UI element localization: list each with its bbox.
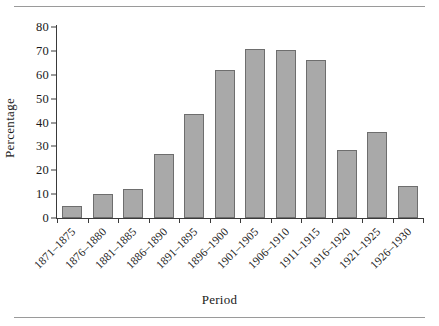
bar bbox=[245, 49, 265, 219]
top-divider-rule bbox=[14, 6, 425, 7]
bar bbox=[337, 150, 357, 218]
y-axis-title: Percentage bbox=[2, 78, 18, 178]
chart-figure: 01020304050607080 1871–18751876–18801881… bbox=[0, 0, 439, 326]
y-tick-mark bbox=[51, 98, 56, 99]
y-tick-mark bbox=[51, 218, 56, 219]
y-tick-label: 10 bbox=[36, 188, 49, 201]
x-tick-mark bbox=[240, 218, 241, 223]
x-tick-mark bbox=[332, 218, 333, 223]
bar bbox=[123, 189, 143, 218]
y-tick-label: 80 bbox=[36, 21, 49, 34]
y-tick-mark bbox=[51, 170, 56, 171]
bar bbox=[184, 114, 204, 218]
bar bbox=[398, 186, 418, 218]
bottom-divider-rule bbox=[14, 317, 425, 318]
y-tick-mark bbox=[51, 74, 56, 75]
y-tick-mark bbox=[51, 146, 56, 147]
bar bbox=[276, 50, 296, 218]
y-tick-label: 50 bbox=[36, 92, 49, 105]
x-tick-mark bbox=[393, 218, 394, 223]
bar bbox=[306, 60, 326, 218]
x-tick-mark bbox=[149, 218, 150, 223]
x-tick-mark bbox=[210, 218, 211, 223]
y-tick-mark bbox=[51, 194, 56, 195]
bar bbox=[93, 194, 113, 218]
bar bbox=[215, 70, 235, 218]
x-tick-mark bbox=[362, 218, 363, 223]
y-tick-mark bbox=[51, 50, 56, 51]
bar bbox=[154, 154, 174, 218]
y-tick-mark bbox=[51, 27, 56, 28]
bar bbox=[367, 132, 387, 218]
y-tick-label: 20 bbox=[36, 164, 49, 177]
x-axis-title: Period bbox=[0, 292, 439, 308]
bar bbox=[62, 206, 82, 218]
x-tick-mark bbox=[118, 218, 119, 223]
y-tick-label: 60 bbox=[36, 69, 49, 82]
x-tick-mark bbox=[57, 218, 58, 223]
plot-area bbox=[57, 27, 423, 218]
x-tick-mark bbox=[88, 218, 89, 223]
x-tick-mark bbox=[271, 218, 272, 223]
x-tick-mark bbox=[301, 218, 302, 223]
y-tick-mark bbox=[51, 122, 56, 123]
y-tick-label: 30 bbox=[36, 140, 49, 153]
x-tick-mark bbox=[423, 218, 424, 223]
y-tick-label: 70 bbox=[36, 45, 49, 58]
x-tick-mark bbox=[179, 218, 180, 223]
y-tick-label: 40 bbox=[36, 116, 49, 129]
y-tick-label: 0 bbox=[43, 212, 49, 225]
